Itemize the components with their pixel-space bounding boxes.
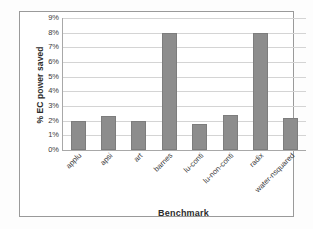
- bar: [131, 121, 146, 150]
- y-axis-tick-label: 3%: [39, 102, 59, 110]
- x-axis-title: Benchmark: [62, 208, 305, 218]
- bar-series: [63, 18, 306, 150]
- bar: [283, 118, 298, 150]
- y-axis-tick-label: 5%: [39, 73, 59, 81]
- y-axis-tick-label: 6%: [39, 58, 59, 66]
- plot-area: [62, 18, 306, 151]
- bar: [71, 121, 86, 150]
- y-axis-tick-label: 8%: [39, 29, 59, 37]
- y-axis-tick-labels: 0%1%2%3%4%5%6%7%8%9%: [39, 14, 59, 146]
- bar: [253, 33, 268, 150]
- bar: [101, 116, 116, 150]
- x-axis-tick-labels: appluapsiartbarneslu-contilu-non-contira…: [62, 151, 305, 213]
- y-axis-tick-label: 9%: [39, 14, 59, 22]
- y-axis-tick-label: 1%: [39, 131, 59, 139]
- y-axis-tick-label: 7%: [39, 43, 59, 51]
- bar: [192, 124, 207, 150]
- y-axis-tick-label: 0%: [39, 146, 59, 154]
- y-axis-tick-label: 4%: [39, 87, 59, 95]
- chart-figure: % EC power saved 0%1%2%3%4%5%6%7%8%9% ap…: [0, 0, 313, 229]
- y-axis-tick-label: 2%: [39, 117, 59, 125]
- chart-plot-frame: % EC power saved 0%1%2%3%4%5%6%7%8%9% ap…: [19, 11, 294, 217]
- bar: [223, 115, 238, 150]
- bar: [162, 33, 177, 150]
